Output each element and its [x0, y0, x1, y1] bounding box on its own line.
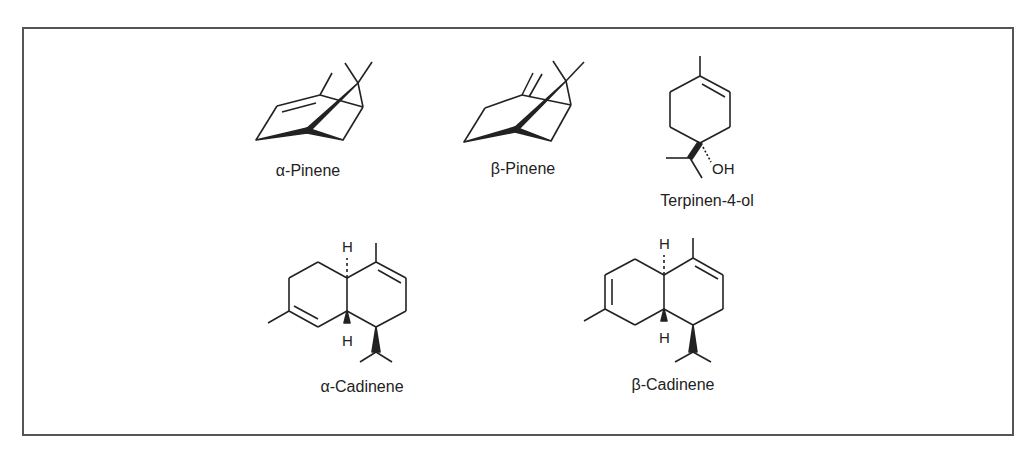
terpinen-4-ol-label: Terpinen-4-ol [660, 192, 753, 210]
structures-canvas [0, 0, 1033, 459]
beta-pinene-label: β-Pinene [491, 160, 555, 178]
beta-cadinene-h-bottom: H [659, 329, 670, 346]
beta-pinene-structure [464, 61, 584, 142]
alpha-pinene-structure [256, 62, 372, 140]
alpha-cadinene-h-bottom: H [342, 332, 353, 349]
hydroxyl-atom-label: OH [712, 160, 735, 177]
alpha-cadinene-label: α-Cadinene [320, 378, 403, 396]
alpha-pinene-label: α-Pinene [276, 162, 340, 180]
alpha-cadinene-h-top: H [342, 238, 353, 255]
beta-cadinene-structure [584, 238, 723, 362]
beta-cadinene-h-top: H [659, 235, 670, 252]
alpha-cadinene-structure [268, 243, 406, 362]
beta-cadinene-label: β-Cadinene [631, 376, 714, 394]
